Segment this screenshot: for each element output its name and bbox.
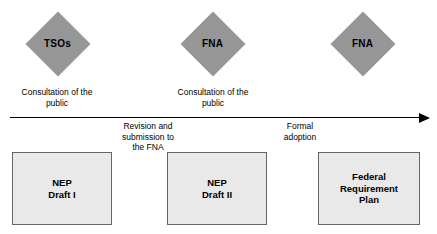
actor-node-1: TSOs xyxy=(25,11,90,76)
document-box-nep-draft-1: NEPDraft I xyxy=(12,152,112,225)
consultation-caption-2: Consultation of thepublic xyxy=(160,87,266,108)
actor-node-2: FNA xyxy=(180,11,245,76)
transition-label-1: Revision andsubmission tothe FNA xyxy=(98,121,198,153)
transition-label-2: Formaladoption xyxy=(255,121,345,142)
actor-label-1: TSOs xyxy=(25,11,90,76)
actor-label-2: FNA xyxy=(180,11,245,76)
document-box-federal-requirement-plan: FederalRequirementPlan xyxy=(318,152,420,225)
timeline-axis-line xyxy=(10,117,422,119)
document-box-nep-draft-2: NEPDraft II xyxy=(167,152,267,225)
consultation-caption-1: Consultation of thepublic xyxy=(4,87,110,108)
process-flow-diagram: TSOs FNA FNA Consultation of thepublic C… xyxy=(0,0,437,234)
actor-label-3: FNA xyxy=(330,11,395,76)
timeline-arrowhead-icon xyxy=(419,113,430,123)
actor-node-3: FNA xyxy=(330,11,395,76)
